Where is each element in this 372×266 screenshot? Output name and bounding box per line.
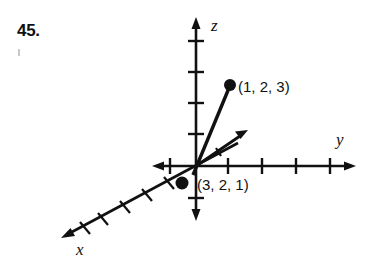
z-axis-positive-arrowhead xyxy=(192,17,201,29)
x-axis-positive-arrowhead xyxy=(61,228,75,238)
y-axis-positive-arrowhead xyxy=(344,162,356,171)
y-axis-negative-arrowhead xyxy=(152,162,164,171)
point-marker-3-2-1 xyxy=(176,177,189,190)
point-label-1-2-3: (1, 2, 3) xyxy=(238,78,290,95)
figure-canvas: 45. xyxy=(0,0,372,266)
y-axis-label: y xyxy=(334,130,344,149)
vector-to-point-1-2-3 xyxy=(193,79,236,175)
x-axis-label: x xyxy=(75,240,84,259)
z-axis-negative-arrowhead xyxy=(192,209,201,221)
z-axis-label: z xyxy=(210,16,218,35)
point-label-3-2-1: (3, 2, 1) xyxy=(197,176,249,193)
coordinate-axes-diagram: z y x (1, 2, 3) (3, 2, 1) xyxy=(0,0,372,266)
point-marker-1-2-3 xyxy=(224,79,236,91)
